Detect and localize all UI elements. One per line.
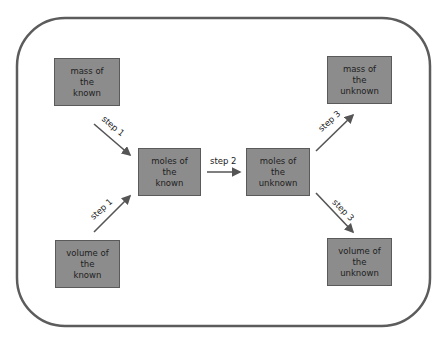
node-text: known [66,270,108,281]
node-text: mass of [70,66,103,77]
node-text: unknown [259,178,298,189]
node-text: known [70,88,103,99]
node-mass-known: mass oftheknown [54,58,120,106]
node-volume-unknown: volume oftheunknown [327,238,392,286]
node-text: volume of [338,246,380,257]
node-text: unknown [340,86,379,97]
node-text: mass of [340,64,379,75]
node-text: the [340,75,379,86]
diagram-canvas: mass oftheknown volume oftheknown moles … [0,0,445,340]
node-text: known [151,178,187,189]
node-mass-unknown: mass oftheunknown [327,56,392,104]
node-text: moles of [259,156,298,167]
node-moles-known: moles oftheknown [138,148,201,196]
node-text: the [70,77,103,88]
node-text: the [66,259,108,270]
node-text: the [259,167,298,178]
node-text: unknown [338,268,380,279]
node-moles-unknown: moles oftheunknown [246,148,310,196]
node-volume-known: volume oftheknown [55,240,120,288]
diagram-svg [0,0,445,340]
node-text: the [338,257,380,268]
edge-label-step2: step 2 [210,156,237,166]
node-text: moles of [151,156,187,167]
node-text: volume of [66,248,108,259]
node-text: the [151,167,187,178]
